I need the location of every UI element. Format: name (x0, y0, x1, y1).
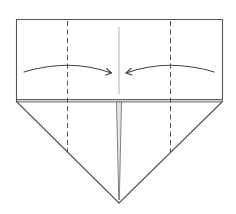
origami-diagram (0, 0, 236, 214)
top-flap (17, 20, 223, 100)
center-slit (117, 102, 122, 200)
